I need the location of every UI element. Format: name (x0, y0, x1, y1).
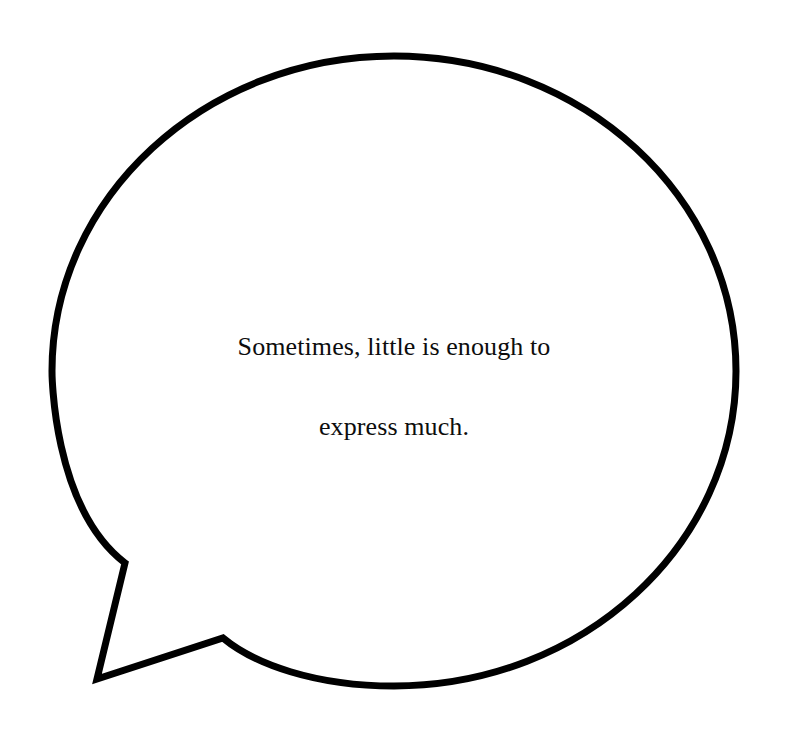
bubble-text-line-2: express much. (0, 407, 788, 447)
bubble-text-line-1: Sometimes, little is enough to (0, 327, 788, 367)
speech-bubble-image: Sometimes, little is enough to express m… (0, 0, 788, 737)
bubble-text-block: Sometimes, little is enough to express m… (0, 287, 788, 487)
